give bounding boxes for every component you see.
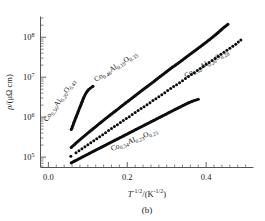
data-point (137, 109, 140, 112)
data-point (69, 155, 72, 158)
data-point (113, 125, 116, 128)
y-tick-label: 105 (23, 152, 35, 162)
y-tick-label: 106 (23, 112, 35, 122)
data-point (163, 91, 166, 94)
data-point (104, 131, 107, 134)
data-point (75, 151, 78, 154)
x-tick-label: 0.4 (201, 172, 212, 182)
data-point (151, 99, 154, 102)
figure-panel-b: 1051061071080.00.20.4Co0.56Al0.20O0.43Co… (0, 0, 265, 221)
data-point (83, 145, 86, 148)
x-tick-label: 0.0 (43, 172, 54, 182)
data-point (226, 23, 229, 26)
data-point (239, 39, 242, 42)
data-point (228, 47, 231, 50)
data-point (146, 103, 149, 106)
data-point (172, 85, 175, 88)
data-point (231, 45, 234, 48)
data-point (95, 137, 98, 140)
x-tick-label: 0.2 (122, 172, 133, 182)
data-point (178, 81, 181, 84)
data-point (80, 147, 83, 150)
panel-label: (b) (142, 205, 153, 215)
data-point (119, 121, 122, 124)
data-point (140, 107, 143, 110)
data-point (128, 115, 131, 118)
y-axis-title: ρ/(μΩ cm) (4, 74, 14, 111)
data-point (175, 83, 178, 86)
data-point (237, 41, 240, 44)
y-tick-label: 107 (23, 72, 35, 82)
data-point (77, 149, 80, 152)
data-point (131, 113, 134, 116)
series-label-1: Co0.46Al0.19O0.35 (92, 49, 139, 85)
data-point (197, 98, 200, 101)
data-point (110, 127, 113, 130)
data-point (86, 143, 89, 146)
data-point (143, 105, 146, 108)
data-point (92, 139, 95, 142)
data-point (101, 133, 104, 136)
series-0 (70, 85, 95, 131)
data-point (134, 111, 137, 114)
data-point (116, 123, 119, 126)
scatter-plot: 1051061071080.00.20.4Co0.56Al0.20O0.43Co… (0, 0, 265, 221)
data-point (166, 89, 169, 92)
y-tick-label: 108 (23, 32, 35, 42)
data-point (160, 93, 163, 96)
data-point (107, 129, 110, 132)
x-axis-title: T-1/2/(K-1/2) (128, 188, 166, 198)
data-point (181, 79, 184, 82)
data-point (91, 85, 94, 88)
data-point (89, 141, 92, 144)
data-point (125, 117, 128, 120)
data-point (98, 135, 101, 138)
data-point (234, 43, 237, 46)
data-point (154, 97, 157, 100)
series-label-0: Co0.56Al0.20O0.43 (41, 77, 78, 124)
data-point (148, 101, 151, 104)
data-point (157, 95, 160, 98)
series-label-2: Co0.52Al0.20O0.28 (183, 47, 231, 81)
data-point (122, 119, 125, 122)
data-point (169, 87, 172, 90)
